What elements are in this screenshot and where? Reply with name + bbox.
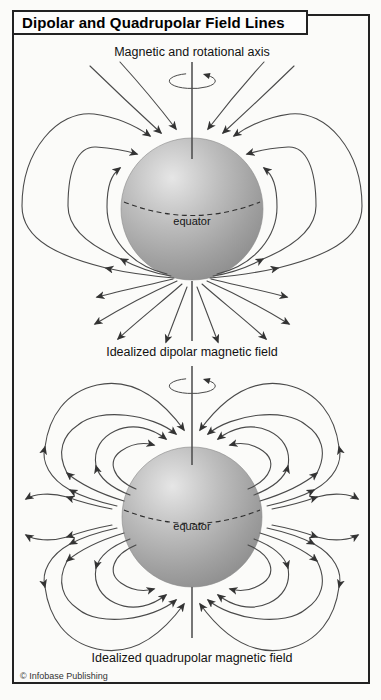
figure-page: Dipolar and Quadrupolar Field Lines Magn…: [0, 0, 381, 700]
dipole-diagram: Magnetic and rotational axis: [22, 45, 362, 359]
planet-sphere-dipole: [121, 138, 263, 280]
equator-label-dipole: equator: [173, 215, 211, 227]
quadrupole-caption: Idealized quadrupolar magnetic field: [92, 651, 293, 665]
dipole-caption: Idealized dipolar magnetic field: [106, 345, 278, 359]
copyright-text: © Infobase Publishing: [20, 671, 108, 681]
equator-label-quadrupole: equator: [173, 520, 211, 532]
figure-title-box: Dipolar and Quadrupolar Field Lines: [12, 10, 308, 35]
figure-title: Dipolar and Quadrupolar Field Lines: [22, 14, 285, 31]
quadrupole-diagram: equator Idealized quadrupolar magnetic f…: [26, 366, 358, 665]
axis-label: Magnetic and rotational axis: [114, 45, 270, 59]
diagram-svg: Magnetic and rotational axis: [0, 0, 381, 700]
